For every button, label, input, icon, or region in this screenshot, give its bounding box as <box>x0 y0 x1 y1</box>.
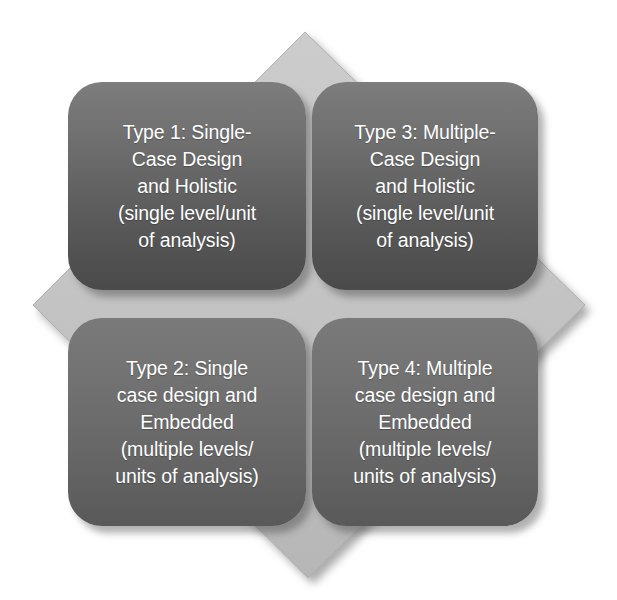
card-type-2[interactable]: Type 2: Single case design and Embedded … <box>68 318 306 526</box>
card-type-4[interactable]: Type 4: Multiple case design and Embedde… <box>312 318 538 526</box>
card-grid: Type 1: Single- Case Design and Holistic… <box>0 0 617 600</box>
card-type-2-label: Type 2: Single case design and Embedded … <box>115 355 258 490</box>
card-type-3-label: Type 3: Multiple- Case Design and Holist… <box>354 119 495 254</box>
card-type-4-label: Type 4: Multiple case design and Embedde… <box>353 355 496 490</box>
case-study-design-matrix-figure: Type 1: Single- Case Design and Holistic… <box>0 0 617 600</box>
card-type-1[interactable]: Type 1: Single- Case Design and Holistic… <box>68 82 306 290</box>
card-type-1-label: Type 1: Single- Case Design and Holistic… <box>118 119 256 254</box>
card-type-3[interactable]: Type 3: Multiple- Case Design and Holist… <box>312 82 538 290</box>
